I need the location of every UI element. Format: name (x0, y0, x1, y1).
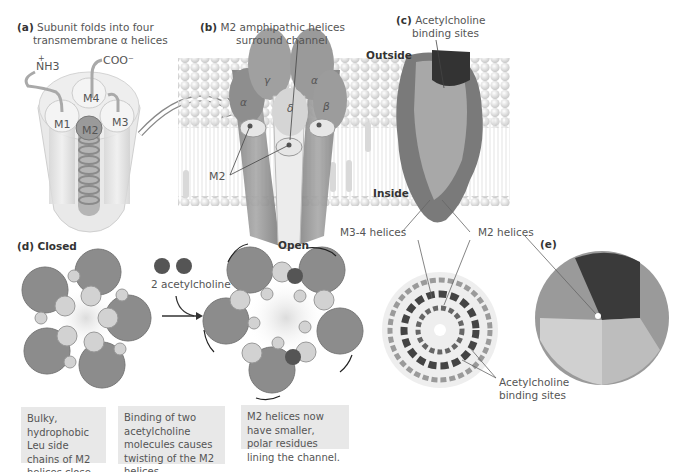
nh3-label: + NH3 (36, 60, 60, 73)
panel-a-title-line2: transmembrane α helices (33, 34, 168, 47)
caption-binding: Binding of two acetylcholine molecules c… (118, 406, 225, 464)
panel-c-title-line1: Acetylcholine (415, 14, 485, 26)
m2-helices-label: M2 helices (478, 226, 534, 239)
subunit-beta-label: β (323, 100, 330, 113)
panel-a-title-line1: Subunit folds into four (37, 21, 154, 33)
panel-a-letter: (a) (17, 21, 34, 33)
inside-label: Inside (373, 187, 409, 200)
caption-open: M2 helices now have smaller, polar resid… (241, 405, 349, 449)
panel-a-title: (a) Subunit folds into four (17, 21, 154, 34)
panel-b-letter: (b) (200, 21, 217, 33)
panel-b-title-line2: surround channel (236, 34, 328, 47)
open-channel-diagram (203, 244, 363, 400)
ach-binding-label-line1: Acetylcholine (499, 376, 569, 389)
panel-c-title: (c) Acetylcholine (396, 14, 485, 27)
helix-m2-label: M2 (82, 124, 99, 137)
m34-helices-label: M3-4 helices (340, 226, 406, 239)
panel-b-title: (b) M2 amphipathic helices (200, 21, 345, 34)
panel-b-title-line1: M2 amphipathic helices (220, 21, 345, 33)
m2-label-b: M2 (209, 170, 226, 183)
open-label: Open (278, 239, 309, 252)
subunit-diagram (26, 60, 140, 232)
panel-e-letter: (e) (540, 238, 557, 250)
helix-m3-label: M3 (112, 116, 129, 129)
ach-binding-label-line2: binding sites (499, 389, 566, 402)
panel-d-letter: (d) (17, 240, 34, 252)
outside-label: Outside (366, 49, 412, 62)
ribbon-model-top (382, 240, 498, 388)
caption-closed: Bulky, hydrophobic Leu side chains of M2… (21, 407, 106, 463)
acetylcholine-label: 2 acetylcholine (151, 278, 231, 291)
closed-label: Closed (37, 240, 76, 252)
subunit-delta-label: δ (287, 102, 293, 115)
panel-c-title-line2: binding sites (412, 27, 479, 40)
helix-m4-label: M4 (83, 92, 100, 105)
coo-label: COO⁻ (103, 54, 134, 67)
panel-d-title: (d) Closed (17, 240, 77, 253)
subunit-alpha-label-2: α (240, 96, 247, 109)
nh3-charge: + (38, 52, 45, 65)
subunit-gamma-label: γ (264, 74, 270, 87)
panel-c-letter: (c) (396, 14, 412, 26)
closed-channel-diagram (22, 249, 151, 388)
subunit-alpha-label-1: α (311, 74, 318, 87)
helix-m1-label: M1 (54, 118, 71, 131)
space-filling-model-top (525, 236, 669, 385)
